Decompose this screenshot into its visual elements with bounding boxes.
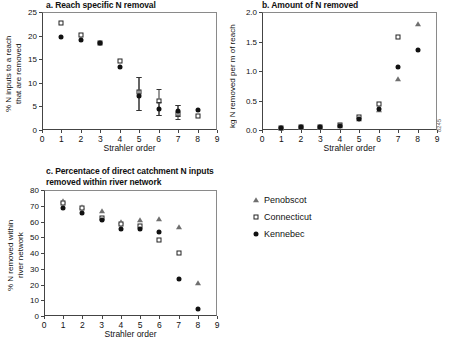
panel-c-point-penobscot: [137, 217, 143, 222]
panel-a-point-kennebec: [156, 107, 161, 112]
panel-c-y-tickmark: [41, 190, 44, 191]
panel-a-error-bar-cap: [156, 115, 161, 116]
panel-c-x-tickmark: [179, 316, 180, 319]
panel-a-x-tick-label: 0: [40, 134, 45, 144]
panel-b-y-tick-label: 0.0: [232, 126, 257, 135]
panel-a-x-tick-label: 1: [59, 134, 64, 144]
panel-a-x-tick-label: 7: [176, 134, 181, 144]
triangle-marker-icon: [253, 197, 259, 202]
panel-b-y-tickmark: [259, 12, 262, 13]
filled-circle-marker-icon: [254, 232, 259, 237]
panel-c-x-tick-label: 4: [119, 320, 124, 330]
panel-a-point-kennebec: [78, 37, 83, 42]
panel-c-point-connecticut: [176, 251, 181, 256]
panel-b-x-tick-label: 2: [299, 134, 304, 144]
panel-b-point-penobscot: [415, 21, 421, 26]
panel-a-x-tickmark: [178, 130, 179, 133]
panel-b-x-tickmark: [418, 130, 419, 133]
legend-item-connecticut: Connecticut: [252, 209, 372, 226]
panel-c-point-kennebec: [118, 227, 123, 232]
panel-a-point-kennebec: [137, 94, 142, 99]
panel-b-side-code: 8245: [436, 108, 442, 132]
panel-c-point-kennebec: [157, 229, 162, 234]
panel-c-x-tickmark: [217, 316, 218, 319]
panel-b-y-tick-label: 2.0: [232, 8, 257, 17]
panel-c-point-kennebec: [138, 226, 143, 231]
panel-a-error-bar-cap: [176, 105, 181, 106]
panel-b-y-tick-label: 1.5: [232, 37, 257, 46]
panel-b-x-tick-label: 5: [357, 134, 362, 144]
panel-c-x-tick-label: 2: [80, 320, 85, 330]
panel-c-y-tick-label: 20: [14, 280, 39, 289]
panel-b-x-tickmark: [379, 130, 380, 133]
panel-a-title: a. Reach specific N removal: [46, 0, 226, 11]
panel-c-y-tickmark: [41, 269, 44, 270]
panel-c-title: c. Percentace of direct catchment N inpu…: [46, 166, 246, 187]
panel-a-x-tickmark: [159, 130, 160, 133]
panel-c-y-tick-label: 0: [14, 312, 39, 321]
panel-c-point-kennebec: [80, 210, 85, 215]
panel-a-x-tickmark: [100, 130, 101, 133]
panel-a-y-tickmark: [39, 83, 42, 84]
panel-c-x-tickmark: [159, 316, 160, 319]
panel-a-x-tick-label: 6: [156, 134, 161, 144]
panel-c-x-tickmark: [121, 316, 122, 319]
panel-b-plot-area: [262, 12, 437, 130]
panel-a-y-tick-label: 25: [12, 8, 37, 17]
panel-c-y-tickmark: [41, 222, 44, 223]
panel-a-error-bar-cap: [137, 110, 142, 111]
panel-a-x-tickmark: [217, 130, 218, 133]
legend-item-penobscot: Penobscot: [252, 192, 372, 209]
panel-b-x-tick-label: 7: [396, 134, 401, 144]
panel-b-x-tick-label: 1: [279, 134, 284, 144]
panel-c-plot-area: [44, 190, 217, 316]
panel-c-point-connecticut: [118, 221, 123, 226]
panel-a-x-tick-label: 2: [79, 134, 84, 144]
panel-b-x-tickmark: [398, 130, 399, 133]
panel-c-y-tick-label: 60: [14, 217, 39, 226]
panel-b-x-tickmark: [281, 130, 282, 133]
panel-c-y-tick-label: 50: [14, 233, 39, 242]
legend-label-kennebec: Kennebec: [264, 226, 305, 243]
panel-c-point-kennebec: [99, 217, 104, 222]
panel-a-x-axis-label: Strahler order: [42, 143, 217, 153]
panel-a-x-tick-label: 4: [117, 134, 122, 144]
panel-a-y-tickmark: [39, 12, 42, 13]
figure-panel-group: a. Reach specific N removal % N inputs t…: [0, 0, 461, 343]
panel-c-x-tickmark: [140, 316, 141, 319]
panel-b-point-kennebec: [298, 125, 303, 130]
panel-b-point-kennebec: [279, 125, 284, 130]
panel-a-error-bar-cap: [176, 116, 181, 117]
panel-c-x-tickmark: [82, 316, 83, 319]
panel-a-x-tickmark: [139, 130, 140, 133]
panel-b-x-tick-label: 8: [415, 134, 420, 144]
panel-b-x-tick-label: 4: [337, 134, 342, 144]
panel-b-y-tick-label: 0.5: [232, 96, 257, 105]
panel-a-y-tick-label: 20: [12, 31, 37, 40]
panel-c-y-tickmark: [41, 237, 44, 238]
panel-c-y-tick-label: 80: [14, 186, 39, 195]
panel-c-x-tick-label: 5: [138, 320, 143, 330]
panel-c-point-penobscot: [176, 224, 182, 229]
panel-c-y-tickmark: [41, 285, 44, 286]
panel-a-point-kennebec: [195, 107, 200, 112]
panel-b-point-kennebec: [376, 106, 381, 111]
panel-c-x-tickmark: [198, 316, 199, 319]
panel-b-point-kennebec: [415, 47, 420, 52]
panel-a-error-bar-cap: [156, 102, 161, 103]
panel-c-x-tick-label: 7: [176, 320, 181, 330]
panel-c-point-kennebec: [61, 206, 66, 211]
panel-a-point-kennebec: [117, 65, 122, 70]
legend-label-penobscot: Penobscot: [264, 192, 307, 209]
panel-c-x-tick-label: 0: [42, 320, 47, 330]
panel-a-y-tickmark: [39, 59, 42, 60]
panel-a-y-tick-label: 0: [12, 126, 37, 135]
panel-a-error-bar-cap: [156, 89, 161, 90]
panel-c-point-penobscot: [195, 280, 201, 285]
panel-b-x-tickmark: [359, 130, 360, 133]
panel-a-x-tickmark: [198, 130, 199, 133]
panel-a-x-tick-label: 5: [137, 134, 142, 144]
panel-c-y-tickmark: [41, 300, 44, 301]
panel-c-x-tickmark: [44, 316, 45, 319]
panel-b-x-tick-label: 6: [376, 134, 381, 144]
